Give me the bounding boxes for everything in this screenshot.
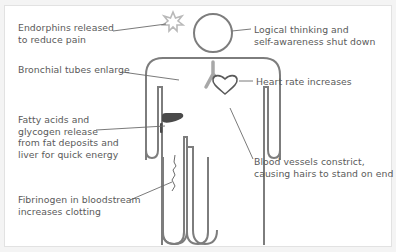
label-logical: Logical thinking and self-awareness shut…: [254, 24, 375, 47]
label-endorphins: Endorphins released to reduce pain: [18, 22, 114, 45]
fat-deposit: [160, 123, 163, 133]
clot-icon: [172, 155, 176, 191]
label-fatty: Fatty acids and glycogen release from fa…: [18, 114, 119, 160]
liver-shape: [162, 113, 183, 123]
label-line: Heart rate increases: [256, 76, 352, 88]
head-shape: [194, 14, 232, 52]
heart-icon: [213, 76, 237, 94]
label-line: Fibrinogen in bloodstream: [18, 194, 141, 206]
leader-endorphins: [113, 24, 166, 31]
starburst-icon: [163, 12, 183, 31]
label-bronchial: Bronchial tubes enlarge: [18, 64, 130, 76]
label-heart: Heart rate increases: [256, 76, 352, 88]
label-line: self-awareness shut down: [254, 36, 375, 48]
legs-shape: [163, 137, 208, 244]
label-line: increases clotting: [18, 206, 141, 218]
label-line: from fat deposits and: [18, 137, 119, 149]
label-line: Fatty acids and: [18, 114, 119, 126]
label-line: causing hairs to stand on end: [254, 168, 393, 180]
leader-bronchial: [122, 72, 179, 80]
leader-blood: [230, 108, 253, 159]
label-line: to reduce pain: [18, 34, 114, 46]
label-line: liver for quick energy: [18, 149, 119, 161]
label-line: Endorphins released: [18, 22, 114, 34]
label-line: glycogen release: [18, 126, 119, 138]
left-arm: [146, 87, 162, 245]
label-line: Bronchial tubes enlarge: [18, 64, 130, 76]
label-fibrinogen: Fibrinogen in bloodstream increases clot…: [18, 194, 141, 217]
leader-logical: [232, 29, 251, 31]
label-line: Blood vessels constrict,: [254, 156, 393, 168]
label-blood: Blood vessels constrict, causing hairs t…: [254, 156, 393, 179]
label-line: Logical thinking and: [254, 24, 375, 36]
